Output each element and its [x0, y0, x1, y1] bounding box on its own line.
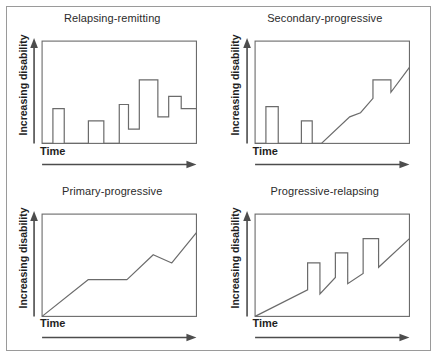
arrow-up-icon	[30, 38, 38, 48]
plot-svg	[219, 179, 432, 352]
plot-area	[219, 6, 432, 179]
panel-grid: Relapsing-remitting Increasing disabilit…	[6, 6, 431, 351]
plot-box	[42, 214, 196, 316]
arrow-up-icon	[243, 38, 251, 48]
panel-secondary-progressive: Secondary-progressive Increasing disabil…	[219, 6, 432, 179]
arrow-right-icon	[186, 161, 196, 169]
arrow-right-icon	[399, 333, 409, 341]
plot-area	[6, 179, 219, 352]
plot-svg	[6, 6, 219, 179]
arrow-right-icon	[186, 333, 196, 341]
arrow-right-icon	[399, 161, 409, 169]
plot-svg	[219, 6, 432, 179]
panel-relapsing-remitting: Relapsing-remitting Increasing disabilit…	[6, 6, 219, 179]
arrow-up-icon	[243, 211, 251, 221]
plot-svg	[6, 179, 219, 352]
figure-root: Relapsing-remitting Increasing disabilit…	[0, 0, 437, 357]
arrow-up-icon	[30, 211, 38, 221]
panel-primary-progressive: Primary-progressive Increasing disabilit…	[6, 179, 219, 352]
plot-area	[6, 6, 219, 179]
panel-progressive-relapsing: Progressive-relapsing Increasing disabil…	[219, 179, 432, 352]
plot-box	[255, 214, 409, 316]
plot-area	[219, 179, 432, 352]
